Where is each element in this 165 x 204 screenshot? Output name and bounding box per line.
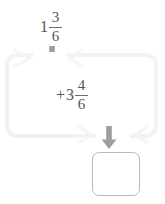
addition-operator: +: [56, 87, 66, 103]
second-addend-fraction: 4 6: [75, 78, 88, 113]
first-addend-fraction: 3 6: [49, 10, 62, 45]
down-arrow-icon-bottom: [101, 126, 117, 150]
first-addend-numerator: 3: [50, 10, 62, 26]
fraction-addition-worksheet: 1 3 6 +: [0, 0, 165, 204]
second-addend-whole-number: 3: [66, 87, 75, 103]
first-addend-whole-number: 1: [40, 19, 49, 35]
answer-value[interactable]: [93, 153, 139, 195]
first-addend-denominator: 6: [50, 29, 62, 45]
second-addend-denominator: 6: [76, 97, 88, 113]
answer-input-box[interactable]: [92, 152, 140, 196]
first-addend-mixed-number: 1 3 6: [40, 10, 62, 45]
second-addend-mixed-number: + 3 4 6: [56, 78, 88, 113]
second-addend-numerator: 4: [76, 78, 88, 94]
